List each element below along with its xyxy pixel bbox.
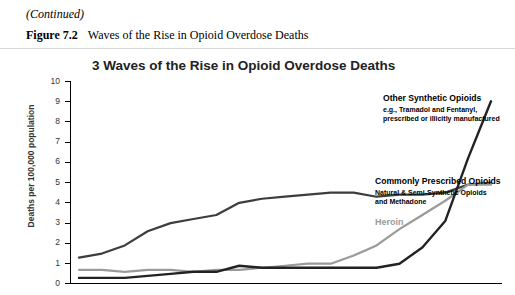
annotation-commonly-prescribed-opioids-title: Commonly Prescribed Opioids xyxy=(375,177,515,187)
y-tick-3: 3 xyxy=(38,217,60,227)
y-tick-4: 4 xyxy=(38,197,60,207)
y-tick-5: 5 xyxy=(38,177,60,187)
continued-note: (Continued) xyxy=(26,7,84,22)
annotation-other-synthetic-opioids: Other Synthetic Opioids e.g., Tramadol a… xyxy=(383,94,515,123)
y-tick-10: 10 xyxy=(38,76,60,86)
annotation-commonly-prescribed-opioids-subtitle: Natural & Semi-Synthetic Opioids and Met… xyxy=(375,189,515,207)
annotation-other-synthetic-opioids-title: Other Synthetic Opioids xyxy=(383,94,515,104)
plot-area: Other Synthetic Opioids e.g., Tramadol a… xyxy=(71,81,501,284)
figure-page: (Continued) Figure 7.2Waves of the Rise … xyxy=(0,0,515,295)
figure-label: Figure 7.2 xyxy=(26,28,78,42)
figure-caption: Figure 7.2Waves of the Rise in Opioid Ov… xyxy=(26,28,308,43)
annotation-other-synthetic-opioids-subtitle: e.g., Tramadol and Fentanyl, prescribed … xyxy=(383,106,515,124)
chart-container: 3 Waves of the Rise in Opioid Overdose D… xyxy=(0,49,515,295)
y-axis-label: Deaths per 100,000 population xyxy=(26,91,36,241)
y-tick-6: 6 xyxy=(38,156,60,166)
y-tick-7: 7 xyxy=(38,136,60,146)
y-tick-9: 9 xyxy=(38,96,60,106)
annotation-heroin: Heroin xyxy=(375,217,404,227)
y-tick-1: 1 xyxy=(38,258,60,268)
y-tick-8: 8 xyxy=(38,116,60,126)
chart-title: 3 Waves of the Rise in Opioid Overdose D… xyxy=(92,58,395,73)
annotation-commonly-prescribed-opioids: Commonly Prescribed Opioids Natural & Se… xyxy=(375,177,515,206)
y-tick-2: 2 xyxy=(38,237,60,247)
y-tick-0: 0 xyxy=(38,278,60,288)
figure-title: Waves of the Rise in Opioid Overdose Dea… xyxy=(88,28,309,42)
